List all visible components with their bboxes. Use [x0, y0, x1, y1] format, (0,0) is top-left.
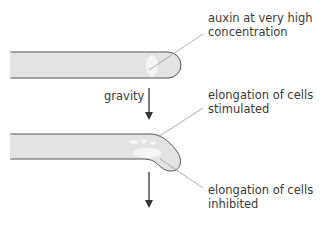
upper-side-speckle — [141, 140, 147, 143]
label-auxin-concentration: auxin at very high concentration — [208, 11, 313, 39]
label-stimulated-line2: stimulated — [208, 102, 313, 116]
gravity-arrow-icon — [145, 88, 153, 120]
label-elongation-stimulated: elongation of cells stimulated — [208, 88, 313, 116]
auxin-patch — [146, 55, 158, 77]
growth-direction-arrow-icon — [145, 172, 153, 208]
label-inhibited-line1: elongation of cells — [208, 183, 313, 197]
upper-side-speckle — [150, 142, 156, 145]
upper-side-speckle — [130, 140, 138, 144]
leader-line-inhibited — [160, 159, 203, 188]
label-inhibited-line2: inhibited — [208, 197, 313, 211]
root-bending — [10, 134, 181, 171]
label-stimulated-line1: elongation of cells — [208, 88, 313, 102]
leader-line-stimulated — [158, 108, 203, 137]
root-horizontal — [10, 52, 181, 78]
lower-side-patch — [133, 148, 161, 158]
label-auxin-line1: auxin at very high — [208, 11, 313, 25]
label-gravity: gravity — [104, 89, 144, 103]
label-elongation-inhibited: elongation of cells inhibited — [208, 183, 313, 211]
label-auxin-line2: concentration — [208, 25, 313, 39]
